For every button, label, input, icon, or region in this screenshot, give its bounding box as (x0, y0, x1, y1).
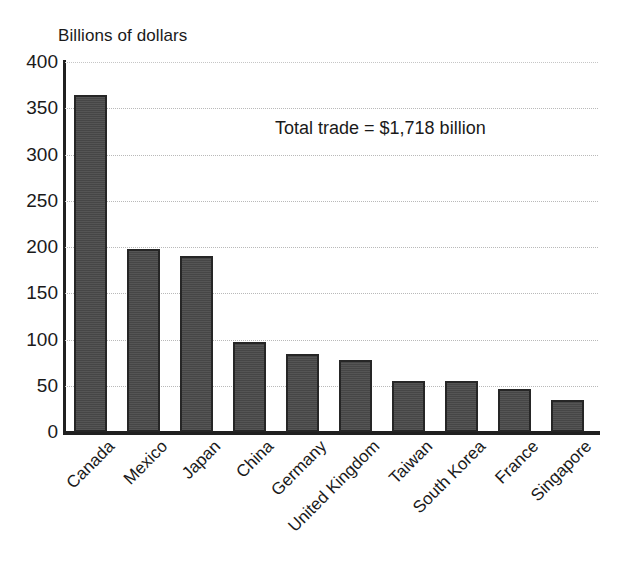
bar-chart-figure: Billions of dollars 05010015020025030035… (0, 0, 620, 585)
x-axis-category-labels: CanadaMexicoJapanChinaGermanyUnited King… (0, 436, 620, 585)
total-trade-annotation: Total trade = $1,718 billion (275, 118, 486, 139)
y-tick-label-200: 200 (6, 237, 58, 256)
y-tick-label-250: 250 (6, 191, 58, 210)
x-label-text: France (492, 436, 543, 487)
x-label-text: Taiwan (386, 436, 437, 487)
y-axis-title: Billions of dollars (58, 26, 187, 46)
y-tick-label-50: 50 (6, 376, 58, 395)
gridline-400 (65, 62, 598, 63)
y-tick-label-300: 300 (6, 145, 58, 164)
x-label-text: Canada (63, 436, 119, 492)
x-label-text: United Kingdom (285, 436, 384, 535)
gridline-300 (65, 155, 598, 156)
y-tick-label-350: 350 (6, 98, 58, 117)
bar-canada (74, 95, 107, 432)
gridline-250 (65, 201, 598, 202)
gridline-350 (65, 108, 598, 109)
gridline-200 (65, 247, 598, 248)
x-label-text: Mexico (120, 436, 172, 488)
y-tick-label-100: 100 (6, 330, 58, 349)
y-tick-label-400: 400 (6, 52, 58, 71)
x-label-text: China (233, 436, 278, 481)
y-tick-label-150: 150 (6, 283, 58, 302)
x-label-text: Japan (178, 436, 224, 482)
